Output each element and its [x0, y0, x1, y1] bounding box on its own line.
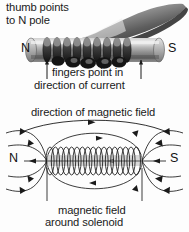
- solenoid-coil-icon: [46, 147, 142, 175]
- fingers-caption-line-1: fingers point in: [52, 66, 123, 79]
- fingers-caption-line-2: direction of current: [34, 79, 125, 92]
- thumb-caption-line-1: thumb points: [6, 1, 69, 14]
- solenoid-caption-line-1: magnetic field: [58, 204, 126, 217]
- finger-wraps: [43, 37, 131, 68]
- solenoid-cylinder-icon: [26, 37, 165, 68]
- thumb-caption-line-2: to N pole: [6, 14, 50, 27]
- north-pole-label-top: N: [21, 42, 30, 55]
- bottom-diagram-artwork: [6, 120, 183, 202]
- field-direction-caption: direction of magnetic field: [31, 106, 155, 119]
- north-pole-label-bottom: N: [9, 152, 18, 165]
- solenoid-caption-line-2: around solenoid: [45, 216, 123, 229]
- solenoid-figure: thumb points to N pole N S fingers point…: [0, 0, 189, 232]
- south-pole-label-top: S: [168, 42, 176, 55]
- south-pole-label-bottom: S: [170, 152, 178, 165]
